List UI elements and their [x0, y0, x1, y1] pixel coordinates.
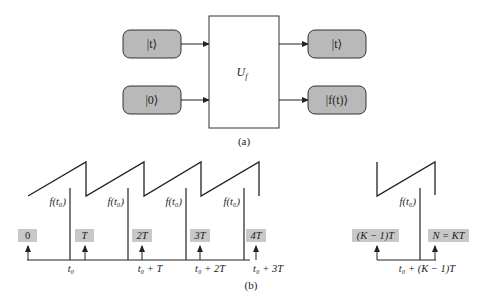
svg-text:3T: 3T: [193, 230, 206, 241]
svg-text:4T: 4T: [250, 230, 262, 241]
value-label-1: f(t₀): [50, 196, 67, 208]
axis-label-t0-plus-K-1-T: t₀ + (K − 1)T: [399, 263, 456, 275]
period-marker-T: T: [75, 229, 94, 260]
output-state-t-label: |t⟩: [332, 37, 342, 51]
svg-text:2T: 2T: [136, 230, 148, 241]
periodic-function-diagram: f(t₀) f(t₀) f(t₀) f(t₀) f(t₀) 0 T 2T 3T: [18, 162, 469, 292]
period-marker-0: 0: [18, 229, 37, 260]
diagram-canvas: |t⟩ |0⟩ Uf |t⟩ |f(t)⟩ (a) f(t₀) f(t₀) f(…: [0, 0, 488, 307]
sawtooth-segment-last: [377, 162, 435, 196]
circuit-diagram: |t⟩ |0⟩ Uf |t⟩ |f(t)⟩ (a): [123, 16, 366, 148]
period-marker-3T: 3T: [190, 229, 210, 260]
value-label-3: f(t₀): [166, 196, 183, 208]
sawtooth-segment-main: [28, 162, 259, 196]
input-state-zero-label: |0⟩: [145, 93, 158, 107]
caption-b: (b): [245, 279, 258, 292]
period-marker-N-KT: N = KT: [428, 229, 469, 260]
axis-label-t0-plus-3T: t₀ + 3T: [253, 263, 284, 274]
period-marker-2T: 2T: [132, 229, 152, 260]
svg-text:(K − 1)T: (K − 1)T: [357, 230, 396, 242]
output-state-ft-label: |f(t)⟩: [326, 93, 348, 107]
svg-text:0: 0: [25, 230, 30, 241]
period-marker-K-1-T: (K − 1)T: [352, 229, 399, 260]
value-label-5: f(t₀): [400, 196, 417, 208]
axis-label-t0-plus-T: t₀ + T: [138, 263, 164, 274]
period-marker-4T: 4T: [246, 229, 266, 260]
value-label-4: f(t₀): [224, 196, 241, 208]
axis-label-t0-plus-2T: t₀ + 2T: [195, 263, 226, 274]
svg-text:N = KT: N = KT: [431, 230, 465, 241]
input-state-t-label: |t⟩: [147, 37, 157, 51]
value-label-2: f(t₀): [108, 196, 125, 208]
caption-a: (a): [238, 135, 251, 148]
axis-label-t0: t₀: [68, 263, 75, 274]
